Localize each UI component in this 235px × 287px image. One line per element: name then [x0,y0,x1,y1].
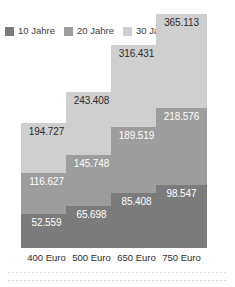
bar-stack: 316.431 189.519 85.408 [111,45,162,248]
x-tick-label-400-euro: 400 Euro [21,251,72,265]
bar-segment-10-jahre: 98.547 [156,185,207,248]
bar-value-label: 316.431 [119,45,154,59]
bar-value-label: 189.519 [119,127,154,141]
bar-segment-20-jahre: 145.748 [66,155,117,206]
bar-value-label: 85.408 [122,193,152,207]
bar-segment-30-jahre: 194.727 [21,123,72,173]
bar-segment-20-jahre: 218.576 [156,108,207,185]
bar-segment-10-jahre: 85.408 [111,193,162,248]
stacked-bar-chart: 10 Jahre 20 Jahre 30 Jahre 194.727 116.6… [0,0,235,287]
bar-value-label: 243.408 [74,92,109,106]
bar-value-label: 98.547 [167,185,197,199]
x-tick-label-650-euro: 650 Euro [111,251,162,265]
footer-dotted-rule-bottom [8,280,227,281]
bar-value-label: 145.748 [74,155,109,169]
bar-value-label: 194.727 [29,123,64,137]
bar-stack: 194.727 116.627 52.559 [21,123,72,248]
bar-segment-20-jahre: 116.627 [21,173,72,214]
bar-segment-30-jahre: 316.431 [111,45,162,126]
bar-segment-30-jahre: 243.408 [66,92,117,155]
bar-segment-20-jahre: 189.519 [111,127,162,194]
bar-segment-10-jahre: 65.698 [66,206,117,248]
bar-segment-30-jahre: 365.113 [156,14,207,108]
plot-area: 194.727 116.627 52.559 243.408 145.748 [0,14,235,248]
bar-segment-10-jahre: 52.559 [21,214,72,248]
bar-value-label: 218.576 [164,108,199,122]
bar-stack: 365.113 218.576 98.547 [156,14,207,248]
x-axis: 400 Euro 500 Euro 650 Euro 750 Euro [0,251,235,265]
bar-value-label: 52.559 [32,214,62,228]
x-tick-label-750-euro: 750 Euro [156,251,207,265]
bar-stack: 243.408 145.748 65.698 [66,92,117,248]
bar-value-label: 116.627 [29,173,64,187]
x-tick-label-500-euro: 500 Euro [66,251,117,265]
bar-value-label: 365.113 [164,14,199,28]
bar-value-label: 65.698 [77,206,107,220]
footer-dotted-rule-top [8,272,227,273]
